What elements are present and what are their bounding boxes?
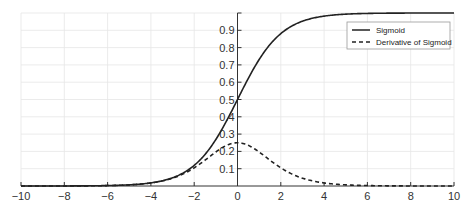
y-tick-label: 0.7 <box>219 59 234 71</box>
x-axis-ticks: −10−8−6−4−20246810 <box>12 182 460 202</box>
x-tick-label: −4 <box>145 190 158 202</box>
x-tick-label: −10 <box>12 190 31 202</box>
x-tick-label: −8 <box>58 190 71 202</box>
x-tick-label: −6 <box>101 190 114 202</box>
legend-label-derivative: Derivative of Sigmoid <box>376 38 452 47</box>
x-tick-label: 0 <box>234 190 240 202</box>
x-tick-label: 2 <box>278 190 284 202</box>
y-tick-label: 0.9 <box>219 24 234 36</box>
x-tick-label: 10 <box>448 190 460 202</box>
x-tick-label: 8 <box>408 190 414 202</box>
y-tick-label: 0.8 <box>219 42 234 54</box>
y-tick-label: 0.2 <box>219 145 234 157</box>
x-tick-label: 4 <box>321 190 327 202</box>
legend-label-sigmoid: Sigmoid <box>376 26 405 35</box>
x-tick-label: 6 <box>364 190 370 202</box>
legend: Sigmoid Derivative of Sigmoid <box>347 22 452 49</box>
sigmoid-chart: −10−8−6−4−20246810 0.10.20.30.40.50.60.7… <box>0 0 465 210</box>
y-tick-label: 0.1 <box>219 163 234 175</box>
y-tick-label: 0.6 <box>219 76 234 88</box>
y-tick-label: 0.5 <box>219 94 234 106</box>
x-tick-label: −2 <box>188 190 201 202</box>
